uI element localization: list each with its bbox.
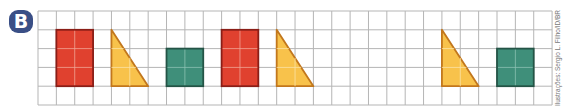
rectangle-red-4: [222, 30, 259, 86]
pattern-grid: [0, 0, 565, 112]
square-green-3: [167, 49, 204, 87]
illustration-credit: Ilustrações: Sergio L. Filho/ID/BR: [554, 10, 561, 106]
rectangle-red-1: [56, 30, 93, 86]
square-green-7: [497, 49, 534, 87]
